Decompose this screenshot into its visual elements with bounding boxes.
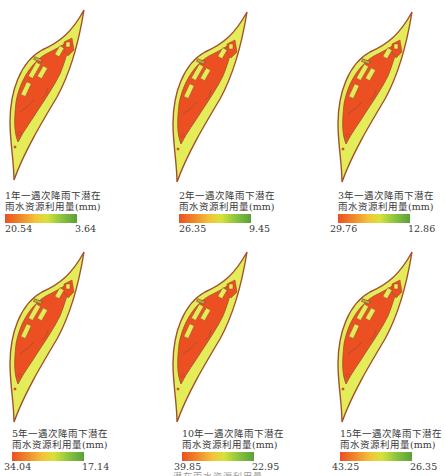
legend-title-line2: 雨水资源利用量(mm) [5, 201, 135, 212]
legend-min-value: 9.45 [249, 223, 270, 234]
color-ramp [179, 214, 251, 223]
legend-title-line1: 15年一遇次降雨下潜在 [340, 428, 446, 439]
map-panel-3yr: 3年一遇次降雨下潜在 雨水资源利用量(mm) 29.7612.86 [290, 0, 435, 238]
legend-title-line2: 雨水资源利用量(mm) [12, 439, 142, 450]
leaf-map-15yr [330, 244, 420, 429]
legend-min-value: 3.64 [75, 223, 96, 234]
figure-caption-cut: ……潜在雨水资源利用量…… [0, 470, 436, 476]
color-ramp [182, 452, 254, 461]
color-ramp [12, 452, 84, 461]
color-ramp [5, 214, 77, 223]
legend-5yr: 5年一遇次降雨下潜在 雨水资源利用量(mm) 34.0417.14 [12, 428, 142, 472]
legend-title-line2: 雨水资源利用量(mm) [340, 439, 446, 450]
leaf-map-3yr [330, 4, 420, 189]
legend-3yr: 3年一遇次降雨下潜在 雨水资源利用量(mm) 29.7612.86 [338, 190, 446, 234]
legend-max-value: 20.54 [5, 223, 32, 234]
legend-min-value: 12.86 [408, 223, 435, 234]
map-panel-1yr: 1年一遇次降雨下潜在 雨水资源利用量(mm) 20.543.64 [0, 0, 145, 238]
color-ramp [338, 214, 410, 223]
leaf-map-1yr [2, 2, 92, 187]
legend-15yr: 15年一遇次降雨下潜在 雨水资源利用量(mm) 43.2526.35 [340, 428, 446, 472]
legend-1yr: 1年一遇次降雨下潜在 雨水资源利用量(mm) 20.543.64 [5, 190, 135, 234]
map-panel-10yr: 10年一遇次降雨下潜在 雨水资源利用量(mm) 39.8522.95 [145, 238, 290, 476]
leaf-map-10yr [165, 244, 255, 429]
leaf-map-5yr [2, 244, 92, 429]
map-panel-2yr: 2年一遇次降雨下潜在 雨水资源利用量(mm) 26.359.45 [145, 0, 290, 238]
legend-title-line1: 5年一遇次降雨下潜在 [12, 428, 142, 439]
color-ramp [340, 452, 412, 461]
legend-title-line1: 3年一遇次降雨下潜在 [338, 190, 446, 201]
leaf-map-2yr [165, 4, 255, 189]
legend-title-line2: 雨水资源利用量(mm) [338, 201, 446, 212]
map-panel-5yr: 5年一遇次降雨下潜在 雨水资源利用量(mm) 34.0417.14 [0, 238, 145, 476]
legend-title-line1: 1年一遇次降雨下潜在 [5, 190, 135, 201]
legend-max-value: 29.76 [330, 223, 357, 234]
legend-max-value: 26.35 [179, 223, 206, 234]
map-panel-15yr: 15年一遇次降雨下潜在 雨水资源利用量(mm) 43.2526.35 [290, 238, 435, 476]
